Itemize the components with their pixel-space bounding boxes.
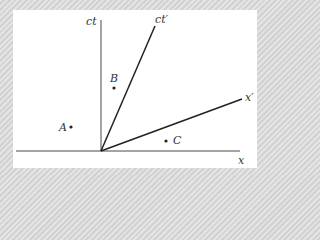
event-a-label: A [59,122,67,133]
event-b-dot [112,86,115,89]
ct-prime-axis [101,26,155,151]
x-prime-axis [101,99,242,151]
event-b-label: B [110,73,118,84]
event-c-label: C [173,135,181,146]
x-prime-axis-label: x′ [245,92,254,103]
event-a-dot [69,125,72,128]
spacetime-diagram [0,0,269,175]
x-axis-label: x [238,155,244,166]
event-c-dot [164,139,167,142]
ct-prime-axis-label: ct′ [155,14,168,25]
ct-axis-label: ct [86,16,97,27]
